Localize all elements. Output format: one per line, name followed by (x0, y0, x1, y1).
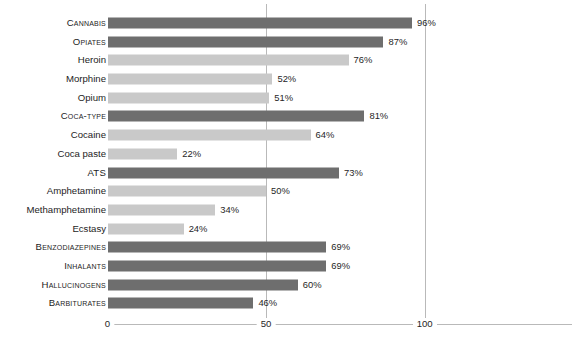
bar-row: Amphetamine50% (0, 182, 572, 201)
bar-value-label: 64% (316, 130, 335, 139)
bar (108, 148, 178, 159)
bar-row: Ecstasy24% (0, 219, 572, 238)
category-label: Ecstasy (72, 224, 106, 234)
bar-row: Morphine52% (0, 70, 572, 89)
bar-value-label: 87% (388, 37, 407, 46)
bar (108, 261, 327, 272)
bar (108, 17, 413, 28)
bar-value-label: 24% (189, 224, 208, 233)
bar-row: Coca paste22% (0, 145, 572, 164)
bar-value-label: 51% (274, 93, 293, 102)
category-label: Barbiturates (49, 299, 106, 309)
bar (108, 186, 267, 197)
bar-row: Heroin76% (0, 51, 572, 70)
bar (108, 204, 216, 215)
category-label: Coca paste (57, 149, 106, 159)
bar-row: Cocaine64% (0, 126, 572, 145)
bar (108, 74, 273, 85)
category-label: Opiates (73, 37, 106, 47)
bar (108, 111, 365, 122)
bar-value-label: 81% (369, 112, 388, 121)
bar-row: Benzodiazepines69% (0, 238, 572, 257)
category-label: Cocaine (71, 130, 106, 140)
bar-value-label: 22% (182, 149, 201, 158)
category-label: Morphine (66, 74, 106, 84)
x-tick-label-0: 0 (101, 319, 114, 329)
bar-row: Cannabis96% (0, 14, 572, 33)
category-label: Hallucinogens (42, 280, 106, 290)
bar-row: Methamphetamine34% (0, 201, 572, 220)
bar (108, 298, 254, 309)
bar-value-label: 50% (271, 187, 290, 196)
bar (108, 167, 340, 178)
category-label: Heroin (78, 56, 106, 66)
bar-row: Hallucinogens60% (0, 275, 572, 294)
bar (108, 92, 270, 103)
axis-line (108, 324, 572, 325)
bar (108, 242, 327, 253)
bar-value-label: 46% (258, 299, 277, 308)
bar-value-label: 76% (354, 56, 373, 65)
bar-value-label: 52% (277, 74, 296, 83)
bar-row: Coca-type81% (0, 107, 572, 126)
bar-row: Opiates87% (0, 32, 572, 51)
bar-value-label: 73% (344, 168, 363, 177)
x-tick-label-50: 50 (257, 319, 276, 329)
category-label: Inhalants (64, 261, 106, 271)
bar-row: Inhalants69% (0, 257, 572, 276)
bar-row: Barbiturates46% (0, 294, 572, 313)
category-label: Amphetamine (47, 186, 106, 196)
bar-row: Opium51% (0, 88, 572, 107)
bar-value-label: 60% (303, 280, 322, 289)
category-label: Cannabis (67, 18, 106, 28)
bar-value-label: 69% (331, 261, 350, 270)
bar-value-label: 34% (220, 205, 239, 214)
bar (108, 279, 298, 290)
category-label: ATS (87, 168, 106, 178)
x-tick-label-100: 100 (413, 319, 437, 329)
bar (108, 130, 311, 141)
bar-value-label: 96% (417, 18, 436, 27)
bar (108, 223, 184, 234)
bar (108, 55, 349, 66)
bar-row: ATS73% (0, 163, 572, 182)
category-label: Coca-type (61, 112, 106, 122)
bar (108, 36, 384, 47)
category-label: Methamphetamine (27, 205, 106, 215)
category-label: Benzodiazepines (36, 243, 106, 253)
bar-value-label: 69% (331, 243, 350, 252)
bar-chart: Cannabis96%Opiates87%Heroin76%Morphine52… (0, 0, 572, 347)
category-label: Opium (78, 93, 106, 103)
